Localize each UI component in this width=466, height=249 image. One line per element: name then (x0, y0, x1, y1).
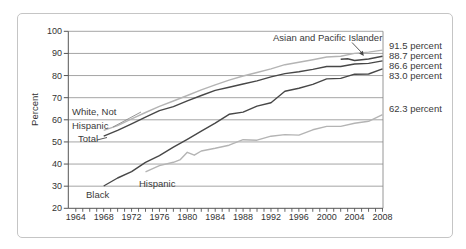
leader-line-total (97, 138, 107, 141)
x-tick-label: 2000 (313, 212, 341, 222)
x-tick-label: 1976 (145, 212, 173, 222)
x-tick-label: 2008 (368, 212, 396, 222)
x-tick-label: 1964 (62, 212, 90, 222)
y-tick-label: 90 (34, 48, 62, 58)
annotation-hispanic: Hispanic (139, 178, 175, 189)
y-tick-label: 80 (34, 71, 62, 81)
end-label-black: 83.0 percent (389, 70, 442, 81)
series-line-black (104, 69, 383, 186)
arrowhead-icon (359, 51, 364, 56)
x-tick-label: 1992 (257, 212, 285, 222)
y-tick-label: 40 (34, 159, 62, 169)
end-label-hispanic: 62.3 percent (389, 103, 442, 114)
leader-line-asian (352, 43, 363, 54)
series-line-white-not-hispanic (104, 50, 383, 130)
x-tick-label: 1972 (118, 212, 146, 222)
y-tick-label: 20 (34, 203, 62, 213)
x-tick-label: 2004 (341, 212, 369, 222)
annotation-total: Total (78, 133, 98, 144)
x-tick-label: 1984 (201, 212, 229, 222)
y-tick-label: 100 (34, 26, 62, 36)
y-tick-label: 60 (34, 115, 62, 125)
x-tick-label: 1980 (173, 212, 201, 222)
y-tick-label: 50 (34, 137, 62, 147)
annotation-white-not-hispanic-line1: White, Not (72, 106, 116, 117)
series-line-total (104, 61, 383, 136)
y-tick-label: 70 (34, 93, 62, 103)
series-line-asian-and-pacific-islander (341, 56, 383, 60)
x-tick-label: 1988 (229, 212, 257, 222)
annotation-asian-pacific-islander: Asian and Pacific Islander (273, 32, 378, 43)
annotation-black: Black (86, 189, 109, 200)
y-tick-label: 30 (34, 181, 62, 191)
x-tick-label: 1968 (90, 212, 118, 222)
x-tick-label: 1996 (285, 212, 313, 222)
annotation-white-not-hispanic-line2: Hispanic (72, 120, 108, 131)
